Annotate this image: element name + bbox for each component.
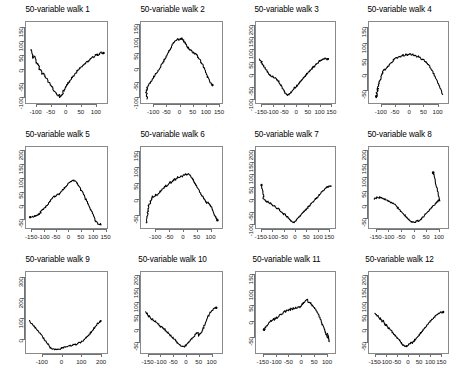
walk-plot-svg — [26, 147, 107, 228]
y-tick-label: -100 — [18, 97, 24, 109]
y-tick-label: 0 — [18, 339, 24, 342]
x-tick-label: 50 — [423, 234, 430, 240]
y-tick-label: 0 — [361, 74, 367, 77]
walk-plot-svg — [369, 147, 448, 228]
y-tick-label: 100 — [248, 49, 254, 59]
plot-area — [140, 271, 223, 354]
x-tick-label: 150 — [326, 109, 336, 115]
random-walk-path — [264, 299, 329, 341]
x-tick-label: 0 — [178, 109, 181, 115]
x-tick-label: -150 — [369, 234, 381, 240]
panel-title: 50-variable walk 3 — [230, 5, 343, 15]
x-axis: -150-100-50050100 — [140, 354, 223, 375]
x-tick-label: -50 — [169, 359, 178, 365]
y-axis: -100-50050100150 — [0, 21, 25, 104]
plot-panel-1: 50-variable walk 1-100-50050100150-100-5… — [0, 0, 115, 125]
x-tick-label: 100 — [434, 234, 444, 240]
y-tick-label: 200 — [248, 150, 254, 160]
y-tick-label: 150 — [361, 164, 367, 174]
x-axis: -150-100-50050100150 — [255, 104, 336, 125]
y-tick-label: 100 — [361, 302, 367, 312]
y-tick-label: 0 — [18, 205, 24, 208]
x-tick-label: 150 — [100, 234, 110, 240]
x-tick-label: -150 — [255, 234, 267, 240]
plot-area — [255, 271, 336, 354]
x-tick-label: 100 — [91, 109, 101, 115]
random-walk-path — [374, 173, 440, 223]
y-tick-label: 50 — [361, 315, 367, 322]
x-tick-label: 150 — [214, 109, 224, 115]
end-point-marker — [100, 320, 102, 322]
random-walk-path — [146, 38, 213, 99]
x-tick-label: -100 — [266, 234, 278, 240]
y-tick-label: -50 — [248, 337, 254, 346]
plot-area — [140, 21, 223, 104]
y-tick-label: 200 — [133, 275, 139, 285]
x-tick-label: 0 — [412, 234, 415, 240]
x-tick-label: -50 — [284, 359, 293, 365]
panel-title: 50-variable walk 12 — [343, 255, 456, 265]
y-tick-label: 50 — [248, 187, 254, 194]
walk-plot-svg — [256, 22, 335, 103]
plot-panel-9: 50-variable walk 90100200300-1000100200 — [0, 250, 115, 375]
plot-panel-7: 50-variable walk 7-100-50050100150200-15… — [230, 125, 343, 250]
x-tick-label: 100 — [201, 109, 211, 115]
walk-plot-svg — [369, 272, 448, 353]
x-tick-label: 50 — [304, 109, 311, 115]
y-tick-label: -100 — [248, 99, 254, 111]
y-axis-line — [24, 277, 25, 338]
plot-panel-6: 50-variable walk 6-50050100150-100-50050… — [115, 125, 230, 250]
x-tick-label: -50 — [391, 109, 400, 115]
y-tick-label: -100 — [248, 224, 254, 236]
y-tick-label: 100 — [248, 174, 254, 184]
end-point-marker — [29, 216, 31, 218]
x-tick-label: 50 — [189, 109, 196, 115]
y-tick-label: 150 — [18, 27, 24, 37]
y-axis: -50050100150200 — [0, 146, 25, 229]
plot-grid: 50-variable walk 1-100-50050100150-100-5… — [0, 0, 456, 375]
y-tick-label: 150 — [133, 151, 139, 161]
y-tick-label: 100 — [18, 41, 24, 51]
random-walk-path — [30, 180, 101, 225]
x-tick-label: 50 — [311, 359, 318, 365]
y-tick-label: -50 — [361, 90, 367, 99]
y-axis: -50050100150 — [230, 271, 255, 354]
x-axis: -150-100-50050100 — [255, 354, 336, 375]
walk-plot-svg — [256, 147, 335, 228]
plot-area — [368, 271, 449, 354]
plot-panel-3: 50-variable walk 3-100-50050100150200-15… — [230, 0, 343, 125]
x-tick-label: 0 — [300, 359, 303, 365]
panel-title: 50-variable walk 4 — [343, 5, 456, 15]
random-walk-path — [261, 185, 331, 223]
x-tick-label: 50 — [193, 234, 200, 240]
y-tick-label: 50 — [18, 192, 24, 199]
x-tick-label: -50 — [165, 234, 174, 240]
y-tick-label: -50 — [133, 215, 139, 224]
walk-plot-svg — [369, 22, 448, 103]
y-tick-label: 0 — [133, 68, 139, 71]
x-tick-label: 100 — [76, 359, 86, 365]
x-tick-label: 100 — [314, 109, 324, 115]
plot-panel-10: 50-variable walk 10-50050100150200-150-1… — [115, 250, 230, 375]
x-tick-label: 0 — [294, 109, 297, 115]
y-tick-label: -50 — [248, 87, 254, 96]
x-tick-label: -50 — [279, 234, 288, 240]
x-axis-line — [263, 354, 327, 355]
y-tick-label: 100 — [361, 177, 367, 187]
y-tick-label: 50 — [248, 305, 254, 312]
y-tick-label: 50 — [361, 191, 367, 198]
y-tick-label: -50 — [248, 212, 254, 221]
y-tick-label: 0 — [248, 199, 254, 202]
y-tick-label: 50 — [133, 183, 139, 190]
y-tick-label: 100 — [133, 38, 139, 48]
x-tick-label: 50 — [416, 359, 423, 365]
y-tick-label: 50 — [18, 55, 24, 62]
x-tick-label: 100 — [433, 109, 443, 115]
x-tick-label: 0 — [181, 234, 184, 240]
walk-plot-svg — [26, 22, 107, 103]
x-tick-label: -100 — [375, 109, 387, 115]
plot-panel-8: 50-variable walk 8-50050100150200-150-10… — [343, 125, 456, 250]
y-axis: -100-50050100150200 — [230, 21, 255, 104]
random-walk-path — [375, 312, 444, 347]
y-tick-label: 50 — [248, 62, 254, 69]
